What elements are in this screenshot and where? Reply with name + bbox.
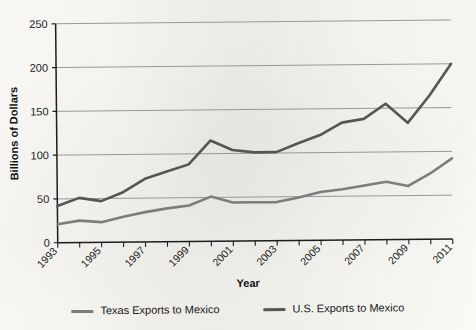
y-axis [52,24,58,243]
chart-canvas: 050100150200250 199319951997199920012003… [0,0,476,330]
y-tick-label: 100 [30,149,48,161]
series-line-2 [56,64,452,206]
x-tick-label: 2001 [210,243,235,268]
x-tick-label: 1993 [34,245,59,270]
x-tick-label: 1997 [122,244,147,269]
legend-entry: U.S. Exports to Mexico [263,301,404,314]
y-tick-label: 50 [37,193,49,205]
x-tick-label: 2003 [254,243,279,268]
x-tick-label: 2005 [298,242,323,267]
y-tick-label: 150 [30,105,48,117]
x-tick-label: 1999 [166,243,191,268]
gridline [56,20,451,24]
gridline [56,64,451,68]
legend-entry: Texas Exports to Mexico [71,303,219,316]
legend-label: U.S. Exports to Mexico [292,301,404,314]
x-tick-label: 1995 [78,244,103,269]
y-axis-line [56,24,58,243]
data-series-lines [56,64,452,225]
y-tick-label: 250 [29,18,47,30]
x-tick-labels: 1993199519971999200120032005200720092011 [34,241,454,270]
chart-legend: Texas Exports to MexicoU.S. Exports to M… [71,301,404,316]
x-tick-label: 2009 [385,241,410,266]
y-tick-label: 200 [30,62,48,74]
y-tick-labels: 050100150200250 [29,18,50,249]
x-axis-title: Year [236,277,260,289]
x-tick-label: 2011 [430,241,454,266]
y-axis-title: Billions of Dollars [7,87,20,181]
line-chart-figure: 050100150200250 199319951997199920012003… [0,0,476,330]
series-line-1 [57,158,453,224]
x-axis [58,239,453,248]
legend-label: Texas Exports to Mexico [100,303,219,316]
x-tick-label: 2007 [342,242,367,267]
